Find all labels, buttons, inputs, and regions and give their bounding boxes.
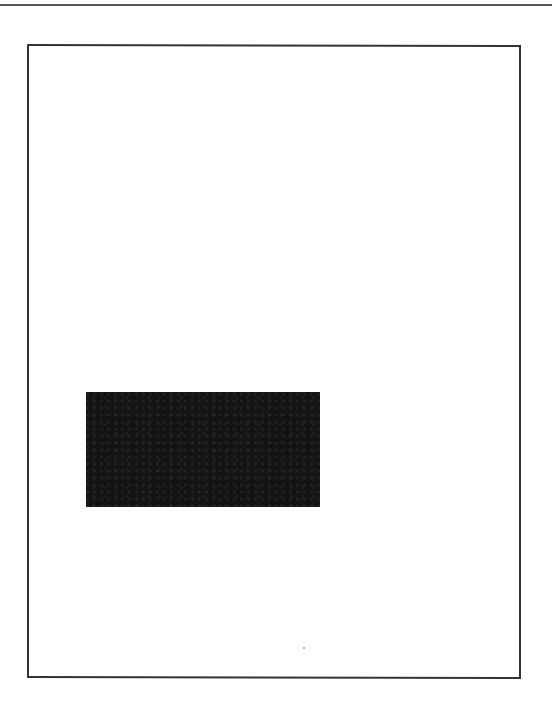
scan-artifact	[303, 647, 305, 649]
redacted-block	[86, 392, 320, 507]
page-frame	[27, 44, 521, 679]
top-rule-divider	[0, 4, 552, 6]
